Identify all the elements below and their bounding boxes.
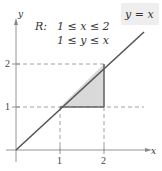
constraint-y: 1 ≤ y ≤ x	[57, 34, 110, 47]
x-tick-label-1: 1	[57, 155, 62, 166]
y-axis-label: y	[17, 9, 24, 19]
y-axis-arrow-icon	[14, 18, 18, 25]
diagram-svg: y x 1 2 1 2 R: 1 ≤ x ≤ 2 1 ≤ y ≤ x y = x	[0, 0, 162, 171]
shaded-region	[60, 64, 104, 107]
y-tick-label-2: 2	[5, 58, 10, 69]
region-label: R:	[34, 20, 47, 33]
line-y-equals-x	[16, 32, 144, 150]
x-tick-label-2: 2	[101, 155, 106, 166]
region-diagram: y x 1 2 1 2 R: 1 ≤ x ≤ 2 1 ≤ y ≤ x y = x	[0, 0, 162, 171]
line-label: y = x	[124, 8, 154, 21]
y-tick-label-1: 1	[5, 101, 10, 112]
x-axis-label: x	[151, 146, 156, 156]
constraint-x: 1 ≤ x ≤ 2	[57, 20, 110, 33]
